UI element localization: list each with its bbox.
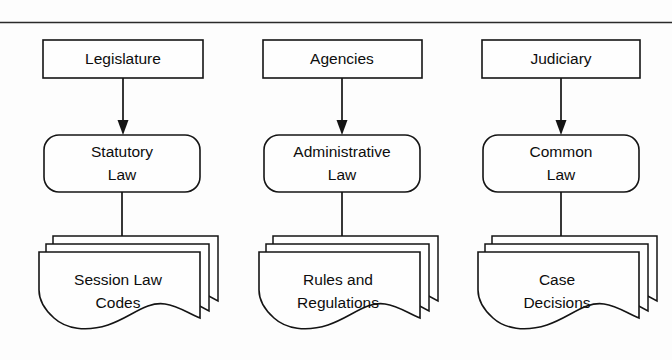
law-box-administrative-law-line1: Administrative xyxy=(293,143,390,160)
law-box-administrative-law-line2: Law xyxy=(328,166,357,183)
doc-stack-sheet-front-administrative[interactable] xyxy=(259,252,420,329)
doc-label-session-law-line1: Session Law xyxy=(74,271,163,288)
law-box-statutory-law-line1: Statutory xyxy=(91,143,153,160)
doc-label-case-line2: Decisions xyxy=(523,294,590,311)
diagram-canvas: Legislature Statutory Law Session Law Co… xyxy=(0,0,672,360)
doc-label-rules-line2: Regulations xyxy=(297,294,379,311)
doc-stack-sheet-front-legislative[interactable] xyxy=(39,252,200,329)
column-judicial: Judiciary Common Law Case Decisions xyxy=(478,40,657,329)
doc-label-case-line1: Case xyxy=(539,271,575,288)
law-box-common-law-line1: Common xyxy=(530,143,593,160)
law-box-common-law-line2: Law xyxy=(547,166,576,183)
source-box-legislature-label: Legislature xyxy=(85,50,161,67)
source-box-agencies-label: Agencies xyxy=(310,50,374,67)
arrowhead-legislature-to-statutory xyxy=(118,120,129,135)
doc-label-session-law-line2: Codes xyxy=(96,294,141,311)
arrowhead-judiciary-to-common xyxy=(556,120,567,135)
law-box-statutory-law-line2: Law xyxy=(108,166,137,183)
arrowhead-agencies-to-administrative xyxy=(337,120,348,135)
source-box-judiciary-label: Judiciary xyxy=(530,50,591,67)
law-sources-diagram: Legislature Statutory Law Session Law Co… xyxy=(0,0,672,360)
doc-label-rules-line1: Rules and xyxy=(303,271,373,288)
column-administrative: Agencies Administrative Law Rules and Re… xyxy=(259,40,438,329)
column-legislative: Legislature Statutory Law Session Law Co… xyxy=(39,40,218,329)
doc-stack-sheet-front-judicial[interactable] xyxy=(478,252,639,329)
